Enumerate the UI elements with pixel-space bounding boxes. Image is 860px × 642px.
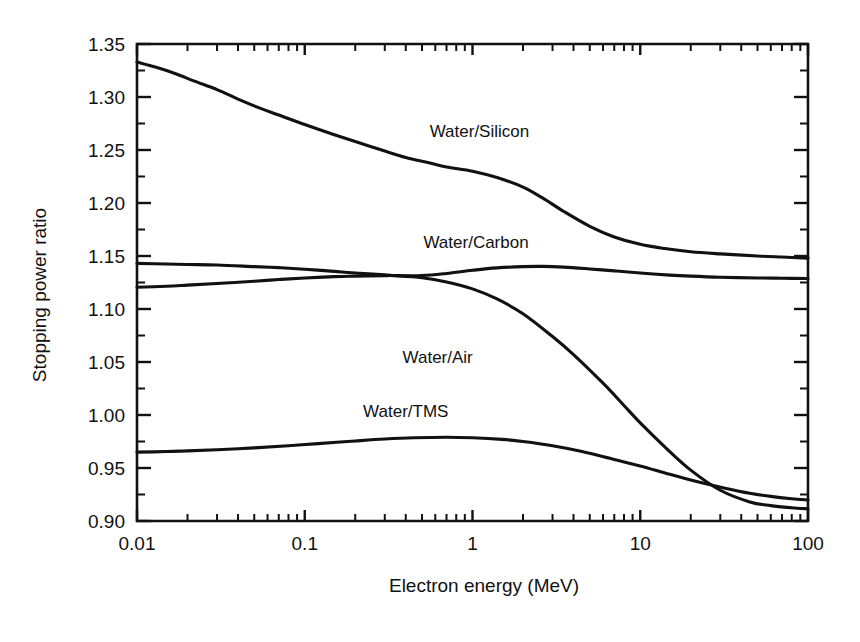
figure-container: 0.010.1110100 0.900.951.001.051.101.151.… [0, 0, 860, 642]
y-tick-label: 1.20 [88, 193, 125, 214]
x-tick-label: 0.1 [292, 533, 318, 554]
y-tick-label: 1.15 [88, 246, 125, 267]
y-tick-label: 1.05 [88, 352, 125, 373]
y-tick-label: 1.25 [88, 140, 125, 161]
curve-label-water-silicon: Water/Silicon [430, 122, 530, 141]
y-axis-title: Stopping power ratio [29, 208, 50, 382]
x-tick-label: 0.01 [119, 533, 156, 554]
y-tick-label: 1.30 [88, 87, 125, 108]
stopping-power-ratio-chart: 0.010.1110100 0.900.951.001.051.101.151.… [0, 0, 860, 642]
y-tick-label: 1.00 [88, 405, 125, 426]
curve-label-water-carbon: Water/Carbon [423, 233, 528, 252]
y-tick-label: 1.10 [88, 299, 125, 320]
curve-label-water-tms: Water/TMS [363, 402, 448, 421]
y-tick-label: 0.95 [88, 458, 125, 479]
x-axis-title: Electron energy (MeV) [389, 575, 579, 596]
x-tick-label: 100 [792, 533, 824, 554]
x-tick-label: 10 [630, 533, 651, 554]
x-tick-label: 1 [467, 533, 478, 554]
y-tick-label: 0.90 [88, 511, 125, 532]
y-tick-label: 1.35 [88, 34, 125, 55]
curve-label-water-air: Water/Air [403, 348, 474, 367]
